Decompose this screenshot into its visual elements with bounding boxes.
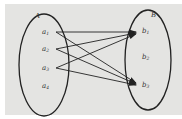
set-a-label: A bbox=[35, 12, 40, 20]
element-a1: a1 bbox=[42, 28, 49, 38]
element-a3: a3 bbox=[42, 64, 49, 74]
element-a2: a2 bbox=[42, 45, 49, 55]
element-b3: b3 bbox=[142, 81, 149, 91]
element-a4: a4 bbox=[42, 82, 49, 92]
arrow-a2-b1 bbox=[56, 33, 136, 49]
element-b2: b2 bbox=[142, 53, 149, 63]
set-b-label: B bbox=[151, 11, 156, 19]
element-b1: b1 bbox=[142, 27, 149, 37]
